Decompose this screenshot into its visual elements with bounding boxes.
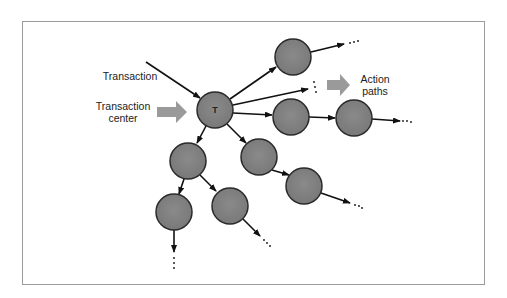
transaction-center-block-arrow [157, 101, 187, 123]
node-action-6 [286, 168, 322, 204]
edge-n4-n7 [179, 179, 184, 194]
edge-n5-n6 [272, 170, 289, 175]
action-paths-label-line1: Action [355, 73, 395, 85]
node-action-7 [156, 194, 192, 230]
edge-T-n5 [227, 124, 246, 143]
edge-n8-out [243, 219, 260, 236]
node-action-8 [212, 188, 248, 224]
edge-n1-out [311, 44, 344, 52]
node-action-5 [241, 139, 277, 175]
action-paths-block-arrow [327, 74, 350, 96]
edge-T-n1 [230, 67, 276, 99]
edge-n6-out [321, 193, 350, 203]
transaction-center-label-line2: center [92, 112, 154, 124]
edge-T-n2 [233, 113, 272, 115]
edge-T-n4 [197, 126, 206, 143]
edge-n2-n3 [309, 117, 335, 118]
action-paths-label-line2: paths [355, 85, 395, 97]
transaction-label: Transaction [100, 70, 160, 82]
transaction-flow-diagram [0, 0, 507, 298]
edge-n4-n8 [200, 175, 216, 191]
node-action-3 [336, 100, 372, 136]
center-node-label: T [209, 104, 221, 116]
edge-n3-out [372, 119, 400, 121]
node-action-1 [275, 39, 311, 75]
node-action-2 [273, 99, 309, 135]
node-action-4 [170, 143, 206, 179]
transaction-center-label-line1: Transaction [92, 100, 154, 112]
